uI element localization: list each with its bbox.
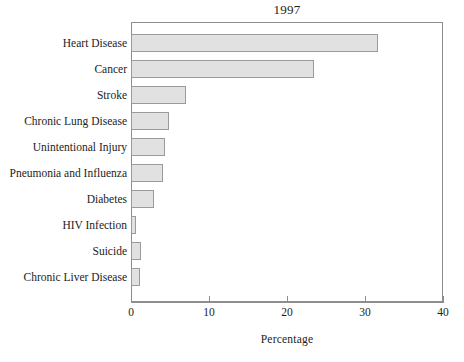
x-tick-mark	[365, 296, 366, 303]
category-label: Pneumonia and Influenza	[0, 164, 127, 182]
bar	[131, 112, 169, 130]
bar	[131, 164, 163, 182]
bar-row	[131, 268, 443, 286]
bar	[131, 216, 136, 234]
bar	[131, 268, 140, 286]
bar-row	[131, 86, 443, 104]
bar	[131, 60, 314, 78]
category-label: Heart Disease	[0, 34, 127, 52]
category-label: Unintentional Injury	[0, 138, 127, 156]
bar	[131, 242, 141, 260]
x-tick-mark	[287, 296, 288, 303]
bar	[131, 138, 165, 156]
bar	[131, 34, 378, 52]
category-label: Chronic Lung Disease	[0, 112, 127, 130]
bar-chart: 1997 Heart DiseaseCancerStrokeChronic Lu…	[0, 0, 464, 362]
chart-title: 1997	[131, 2, 443, 18]
bar	[131, 190, 154, 208]
bar-row	[131, 164, 443, 182]
bar-row	[131, 216, 443, 234]
bars-layer	[131, 22, 443, 302]
category-label: Chronic Liver Disease	[0, 268, 127, 286]
bar-row	[131, 242, 443, 260]
bar-row	[131, 34, 443, 52]
category-label: Diabetes	[0, 190, 127, 208]
bar-row	[131, 138, 443, 156]
x-axis-title: Percentage	[131, 333, 443, 345]
x-tick-label: 0	[111, 306, 151, 318]
x-tick-label: 20	[267, 306, 307, 318]
x-tick-label: 40	[423, 306, 463, 318]
category-label: Stroke	[0, 86, 127, 104]
bar	[131, 86, 186, 104]
category-label: Suicide	[0, 242, 127, 260]
category-label: HIV Infection	[0, 216, 127, 234]
category-axis-labels: Heart DiseaseCancerStrokeChronic Lung Di…	[0, 22, 127, 302]
x-tick-label: 30	[345, 306, 385, 318]
bar-row	[131, 112, 443, 130]
category-label: Cancer	[0, 60, 127, 78]
x-tick-mark	[443, 296, 444, 303]
x-tick-mark	[131, 296, 132, 303]
bar-row	[131, 60, 443, 78]
bar-row	[131, 190, 443, 208]
x-tick-mark	[209, 296, 210, 303]
x-tick-label: 10	[189, 306, 229, 318]
